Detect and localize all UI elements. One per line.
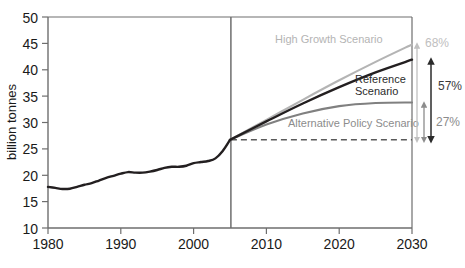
y-label-25: 25 — [22, 141, 38, 157]
reference-scenario-label-line1: Reference — [355, 73, 406, 85]
y-label-15: 15 — [22, 194, 38, 210]
y-label-30: 30 — [22, 115, 38, 131]
x-label-1990: 1990 — [105, 236, 136, 252]
x-label-2020: 2020 — [324, 236, 355, 252]
x-label-2030: 2030 — [396, 236, 427, 252]
y-label-40: 40 — [22, 62, 38, 78]
reference-scenario-label-line2: Scenario — [355, 85, 398, 97]
y-label-10: 10 — [22, 221, 38, 237]
y-axis-title: billion tonnes — [4, 84, 19, 160]
y-label-45: 45 — [22, 36, 38, 52]
y-label-50: 50 — [22, 10, 38, 26]
chart-svg: 50 45 40 35 30 25 20 15 10 1980 1990 200… — [0, 0, 465, 268]
high-growth-scenario-label: High Growth Scenario — [275, 33, 383, 45]
x-label-1980: 1980 — [32, 236, 63, 252]
y-label-35: 35 — [22, 89, 38, 105]
x-label-2010: 2010 — [251, 236, 282, 252]
alternative-policy-scenario-label: Alternative Policy Scenario — [288, 117, 419, 129]
growth-pct-alternative-policy: 27% — [436, 115, 460, 129]
y-label-20: 20 — [22, 168, 38, 184]
y-axis-tick-labels: 50 45 40 35 30 25 20 15 10 — [22, 10, 38, 237]
growth-pct-reference: 57% — [438, 79, 462, 93]
energy-emissions-line-chart: 50 45 40 35 30 25 20 15 10 1980 1990 200… — [0, 0, 465, 268]
growth-pct-high-growth: 68% — [425, 36, 449, 50]
x-label-2000: 2000 — [178, 236, 209, 252]
